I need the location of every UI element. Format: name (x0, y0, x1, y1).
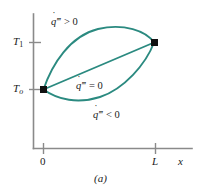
q-relation-zero: = 0 (89, 80, 103, 91)
x-axis-label: x (178, 156, 183, 167)
curve-q-negative (44, 43, 155, 101)
figure-container: T1 To 0 L x ˙q‴ > 0 ˙q‴ = 0 ˙q‴ < 0 (a) (0, 0, 201, 195)
endpoint-marker-end (151, 39, 158, 46)
q-dot-positive: ˙ (52, 11, 55, 21)
q-dot-zero: ˙ (77, 75, 80, 85)
annotation-q-positive: ˙q‴ > 0 (51, 17, 78, 28)
temperature-profile-plot (0, 0, 201, 195)
q-relation-negative: < 0 (106, 109, 120, 120)
q-symbol-positive: ˙q (51, 17, 56, 28)
endpoint-marker-origin (40, 86, 47, 93)
q-relation-positive: > 0 (64, 16, 78, 27)
q-symbol-zero: ˙q (76, 81, 81, 92)
y-tick-label-t1-subscript: 1 (19, 40, 23, 49)
annotation-q-negative: ˙q‴ < 0 (93, 110, 120, 121)
figure-caption: (a) (0, 172, 201, 184)
y-tick-label-t1: T1 (13, 36, 23, 49)
q-dot-negative: ˙ (94, 104, 97, 114)
q-symbol-negative: ˙q (93, 110, 98, 121)
y-tick-label-to-subscript: o (19, 87, 23, 96)
annotation-q-zero: ˙q‴ = 0 (76, 81, 103, 92)
x-tick-label-l: L (152, 156, 158, 167)
q-primes-positive: ‴ (56, 16, 60, 27)
q-primes-zero: ‴ (81, 80, 85, 91)
y-tick-label-to: To (13, 83, 23, 96)
x-tick-label-zero: 0 (40, 156, 46, 167)
q-primes-negative: ‴ (98, 109, 102, 120)
